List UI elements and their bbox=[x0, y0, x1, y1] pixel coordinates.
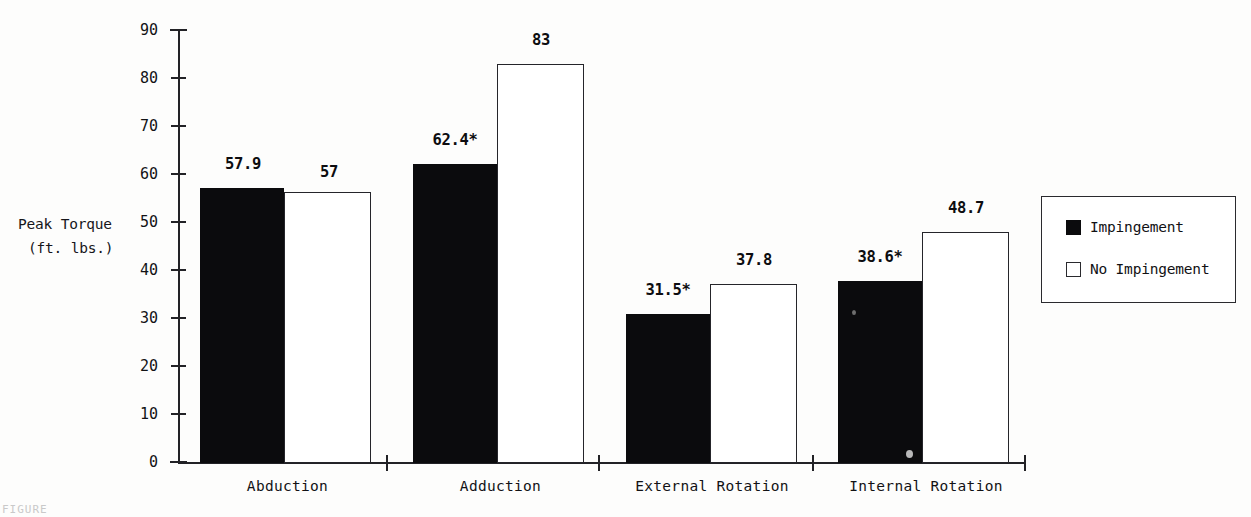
bar-impingement-abduction[interactable] bbox=[200, 188, 284, 463]
legend-item-no-impingement[interactable]: No Impingement bbox=[1066, 261, 1209, 277]
x-category-label-external-rotation: External Rotation bbox=[618, 478, 806, 494]
y-axis-label-line2: (ft. lbs.) bbox=[28, 240, 113, 256]
legend-label-no-impingement: No Impingement bbox=[1090, 261, 1209, 277]
y-tick-60 bbox=[171, 173, 186, 175]
scan-speck bbox=[852, 310, 856, 315]
legend-swatch-filled-icon bbox=[1066, 220, 1081, 235]
value-label-no-impingement-adduction: 83 bbox=[500, 31, 582, 49]
value-label-impingement-abduction: 57.9 bbox=[202, 155, 284, 173]
bar-impingement-adduction[interactable] bbox=[413, 164, 497, 463]
y-axis-line bbox=[178, 29, 180, 463]
y-tick-label-30: 30 bbox=[118, 309, 158, 327]
y-tick-label-20: 20 bbox=[118, 357, 158, 375]
y-tick-30 bbox=[171, 317, 186, 319]
value-label-no-impingement-external-rotation: 37.8 bbox=[713, 251, 795, 269]
x-tick-sep-3 bbox=[812, 455, 814, 471]
scan-speck bbox=[906, 450, 913, 458]
y-axis-label-line1: Peak Torque bbox=[18, 216, 112, 232]
y-tick-label-50: 50 bbox=[118, 213, 158, 231]
y-tick-70 bbox=[171, 125, 186, 127]
legend-swatch-outline-icon bbox=[1066, 262, 1081, 277]
bar-impingement-external-rotation[interactable] bbox=[626, 314, 710, 463]
x-category-label-abduction: Abduction bbox=[205, 478, 370, 494]
x-tick-sep-1 bbox=[386, 455, 388, 471]
y-tick-0 bbox=[170, 461, 187, 463]
y-tick-80 bbox=[171, 77, 186, 79]
bar-impingement-internal-rotation[interactable] bbox=[838, 281, 922, 463]
legend-box: Impingement No Impingement bbox=[1041, 196, 1236, 303]
y-tick-40 bbox=[171, 269, 186, 271]
x-category-label-adduction: Adduction bbox=[418, 478, 583, 494]
bar-no-impingement-adduction[interactable] bbox=[497, 64, 584, 463]
legend-item-impingement[interactable]: Impingement bbox=[1066, 219, 1184, 235]
bar-no-impingement-external-rotation[interactable] bbox=[710, 284, 797, 463]
value-label-impingement-adduction: 62.4* bbox=[412, 131, 498, 149]
legend-label-impingement: Impingement bbox=[1090, 219, 1184, 235]
value-label-impingement-external-rotation: 31.5* bbox=[625, 281, 711, 299]
bar-no-impingement-abduction[interactable] bbox=[284, 192, 371, 463]
y-tick-label-60: 60 bbox=[118, 165, 158, 183]
bar-no-impingement-internal-rotation[interactable] bbox=[922, 232, 1009, 463]
y-tick-label-90: 90 bbox=[118, 21, 158, 39]
y-tick-label-80: 80 bbox=[118, 69, 158, 87]
y-tick-50 bbox=[171, 221, 186, 223]
y-tick-90 bbox=[170, 29, 187, 31]
y-tick-label-10: 10 bbox=[118, 405, 158, 423]
value-label-impingement-internal-rotation: 38.6* bbox=[837, 248, 923, 266]
value-label-no-impingement-abduction: 57 bbox=[288, 163, 370, 181]
x-category-label-internal-rotation: Internal Rotation bbox=[832, 478, 1020, 494]
value-label-no-impingement-internal-rotation: 48.7 bbox=[925, 199, 1007, 217]
y-tick-label-40: 40 bbox=[118, 261, 158, 279]
x-tick-sep-2 bbox=[598, 455, 600, 471]
y-tick-label-0: 0 bbox=[118, 453, 158, 471]
y-tick-10 bbox=[171, 413, 186, 415]
y-tick-label-70: 70 bbox=[118, 117, 158, 135]
x-tick-sep-4 bbox=[1024, 455, 1026, 471]
figure-caption: FIGURE bbox=[2, 503, 48, 516]
y-tick-20 bbox=[171, 365, 186, 367]
